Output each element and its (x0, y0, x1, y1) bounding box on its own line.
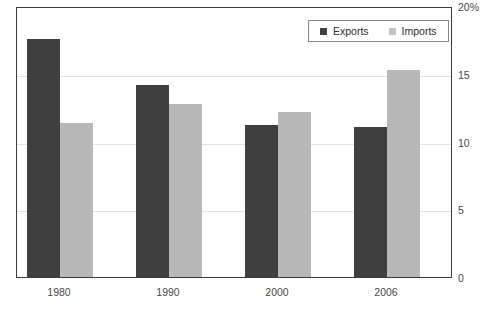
cropped-title-remnant (62, 0, 242, 3)
x-axis-tick-1980: 1980 (34, 287, 84, 298)
bar-imports-2006 (387, 70, 420, 277)
bar-imports-1990 (169, 104, 202, 277)
y-axis-labels: 05101520% (458, 0, 498, 309)
bar-chart: ExportsImports 05101520% 198019902000200… (0, 0, 498, 309)
y-axis-tick-15: 15 (458, 70, 470, 81)
x-axis-tick-2000: 2000 (252, 287, 302, 298)
bar-imports-2000 (278, 112, 311, 277)
bar-imports-1980 (60, 123, 93, 277)
y-axis-tick-5: 5 (458, 205, 464, 216)
legend-item-imports[interactable]: Imports (389, 25, 437, 37)
chart-legend: ExportsImports (308, 20, 449, 42)
legend-swatch-imports-icon (389, 28, 396, 35)
legend-swatch-exports-icon (320, 28, 327, 35)
bars-layer (17, 8, 451, 277)
legend-item-exports[interactable]: Exports (320, 25, 369, 37)
x-axis-tick-2006: 2006 (361, 287, 411, 298)
legend-label: Imports (402, 25, 437, 37)
legend-label: Exports (333, 25, 369, 37)
x-axis-tick-1990: 1990 (143, 287, 193, 298)
y-axis-tick-10: 10 (458, 138, 470, 149)
plot-area (16, 7, 452, 278)
x-axis-labels: 1980199020002006 (16, 287, 452, 305)
bar-exports-1990 (136, 85, 169, 277)
bar-exports-2006 (354, 127, 387, 277)
bar-exports-1980 (27, 39, 60, 277)
y-axis-tick-0: 0 (458, 273, 464, 284)
y-axis-tick-20: 20% (458, 2, 479, 13)
bar-exports-2000 (245, 125, 278, 277)
